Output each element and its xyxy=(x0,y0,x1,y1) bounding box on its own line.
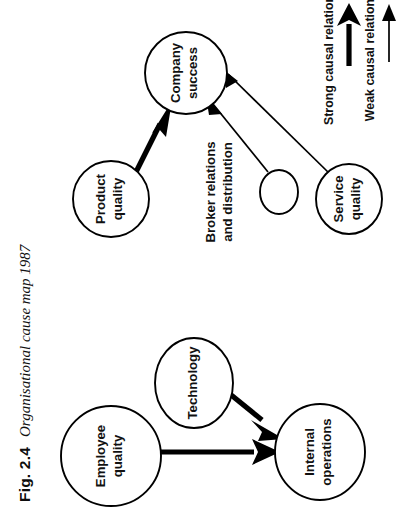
node-employee-quality-label-line1: Employee xyxy=(93,425,108,487)
node-unnamed[interactable] xyxy=(260,170,298,214)
node-company-success-label-line2: success xyxy=(185,47,200,99)
legend-label-strong: Strong causal relation xyxy=(322,0,336,125)
legend-label-weak: Weak causal relation xyxy=(363,0,377,121)
node-service-quality-label-line1: Service xyxy=(331,176,346,223)
edge-employee-to-internal xyxy=(161,439,280,465)
node-company-success-label-line1: Company xyxy=(168,42,183,103)
edge-product-to-success xyxy=(136,101,172,172)
edge-service-to-success xyxy=(220,67,330,174)
node-employee-quality-label-line2: quality xyxy=(110,434,125,477)
legend-item-weak-causal-relation: Weak causal relation xyxy=(363,0,396,121)
label-broker-relations-line2: and distribution xyxy=(220,142,235,242)
node-internal-operations-label-line2: operations xyxy=(319,418,334,485)
legend: Strong causal relation Weak causal relat… xyxy=(322,0,396,125)
node-product-quality[interactable]: Product quality xyxy=(73,161,149,237)
weak-arrow-icon xyxy=(382,4,396,62)
node-product-quality-label-line1: Product xyxy=(93,173,108,223)
node-employee-quality[interactable]: Employee quality xyxy=(61,406,161,506)
node-company-success[interactable]: Company success xyxy=(145,32,227,114)
figure-page: Fig. 2.4 Organisational cause map 1987 C… xyxy=(0,0,401,521)
cause-map-diagram: Company success Product quality Service … xyxy=(0,0,401,521)
node-technology[interactable]: Technology xyxy=(155,338,233,428)
label-broker-relations: Broker relations and distribution xyxy=(203,141,235,242)
legend-item-strong-causal-relation: Strong causal relation xyxy=(322,0,361,125)
node-product-quality-label-line2: quality xyxy=(110,177,125,220)
edge-technology-to-internal xyxy=(225,390,284,441)
strong-arrow-icon xyxy=(337,3,361,66)
node-service-quality-label-line2: quality xyxy=(348,177,363,220)
node-technology-label: Technology xyxy=(185,346,200,420)
node-service-quality[interactable]: Service quality xyxy=(316,164,382,234)
node-internal-operations-label-line1: Internal xyxy=(302,428,317,476)
label-broker-relations-line1: Broker relations xyxy=(203,141,218,242)
node-internal-operations[interactable]: Internal operations xyxy=(275,404,365,500)
